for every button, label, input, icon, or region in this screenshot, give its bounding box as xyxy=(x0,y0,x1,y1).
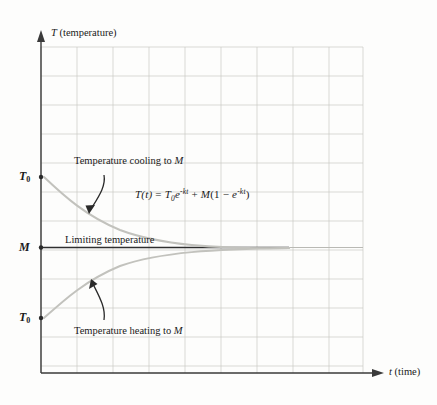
diagram-canvas xyxy=(0,0,437,405)
equation-plus-sign: + xyxy=(189,188,201,200)
tick-label-M: M xyxy=(19,240,30,255)
tick-label-T0-lower-subscript: 0 xyxy=(26,316,30,325)
annotation-limiting-text: Limiting temperature xyxy=(65,234,155,245)
tick-label-T0-upper: T0 xyxy=(19,169,30,184)
annotation-cooling-text: Temperature cooling to xyxy=(74,155,174,166)
x-axis-unit-text: (time) xyxy=(395,366,421,377)
equation-newtons-law: T(t) = T0e-kt + M(1 − e-kt) xyxy=(135,188,250,200)
equation-equals-sign: = xyxy=(152,188,164,200)
annotation-limiting-label: Limiting temperature xyxy=(65,234,155,245)
equation-term2-close-paren: ) xyxy=(246,188,250,200)
tick-label-T0-lower: T0 xyxy=(19,310,30,325)
equation-term2-M: M xyxy=(201,188,210,200)
equation-term1-exponent: -kt xyxy=(180,187,189,196)
heating-annotation-arrow-shaft xyxy=(93,284,104,320)
annotation-cooling-symbol: M xyxy=(174,155,183,166)
x-axis-title: t (time) xyxy=(389,366,420,377)
tick-label-M-symbol: M xyxy=(19,240,30,254)
y-axis-arrowhead xyxy=(37,30,45,42)
tick-label-T0-upper-subscript: 0 xyxy=(26,175,30,184)
equation-term2-open-paren: (1 xyxy=(210,188,223,200)
annotation-heating-symbol: M xyxy=(174,325,183,336)
annotation-heating-text: Temperature heating to xyxy=(74,325,174,336)
equation-lhs-variable: (t) xyxy=(141,188,152,200)
y-axis-title: T (temperature) xyxy=(51,27,117,38)
equation-term2-exponent: -kt xyxy=(237,187,246,196)
tick-dot-M xyxy=(39,245,43,249)
figure-newtons-law-of-cooling: T (temperature) t (time) T0 M T0 Tempera… xyxy=(0,0,437,405)
tick-dot-T0-upper xyxy=(39,175,43,179)
y-axis-symbol: T xyxy=(51,27,57,38)
x-axis-symbol: t xyxy=(389,366,392,377)
equation-term1-subscript: 0 xyxy=(171,194,175,203)
y-axis-unit-text: (temperature) xyxy=(59,27,116,38)
annotation-cooling-label: Temperature cooling to M xyxy=(74,155,183,166)
annotation-heating-label: Temperature heating to M xyxy=(74,325,183,336)
equation-term1-base: T xyxy=(165,188,171,200)
heating-curve xyxy=(44,248,289,318)
equation-term2-minus-sign: − xyxy=(223,188,232,200)
x-axis-arrowhead xyxy=(372,369,384,377)
tick-dot-T0-lower xyxy=(39,316,43,320)
